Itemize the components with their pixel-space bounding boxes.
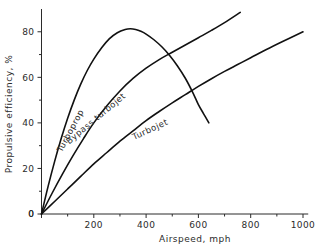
y-axis-title: Propulsive efficiency, % — [4, 55, 14, 174]
x-axis-title: Airspeed, mph — [159, 234, 231, 244]
x-tick-label: 400 — [137, 220, 155, 230]
origin-zero-label: 0 — [28, 209, 34, 219]
x-tick-label: 1000 — [291, 220, 316, 230]
y-tick-label: 40 — [22, 118, 34, 128]
x-tick-label: 600 — [189, 220, 207, 230]
x-tick-label: 800 — [242, 220, 260, 230]
chart-canvas: 020406080 20040060080010000 TurbopropByp… — [0, 0, 321, 248]
y-tick-label: 60 — [22, 73, 34, 83]
y-tick-label: 20 — [22, 164, 34, 174]
propulsive-efficiency-chart: 020406080 20040060080010000 TurbopropByp… — [0, 0, 321, 248]
x-tick-label: 200 — [85, 220, 103, 230]
y-tick-label: 80 — [22, 27, 34, 37]
